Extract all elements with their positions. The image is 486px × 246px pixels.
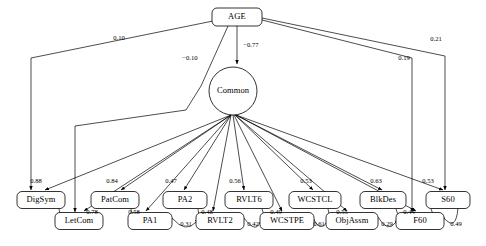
path-diagram-canvas: AGE Common DigSym LetCom PatCom PA1 (0, 0, 486, 246)
edge-age-digsym (31, 21, 213, 190)
edge-label-age-digsym: 0.10 (113, 34, 125, 41)
edge-label-common-pa1: 0.58 (128, 208, 140, 215)
edge-label-age-f60: 0.19 (398, 54, 410, 61)
node-patcom[interactable]: PatCom (91, 192, 139, 209)
node-letcom[interactable]: LetCom (55, 213, 103, 230)
edge-label-age-common: −0.77 (243, 41, 259, 48)
corr-label-pa1-rvlt2: 0.31 (180, 220, 192, 227)
edge-label-age-letcom: −0.10 (182, 54, 198, 61)
edge-label-common-wcstcl: 0.53 (300, 177, 312, 184)
node-objassm-label: ObjAssm (336, 215, 369, 225)
node-common[interactable]: Common (209, 67, 257, 115)
node-wcstcl-label: WCSTCL (297, 194, 332, 204)
node-pa1[interactable]: PA1 (128, 213, 172, 230)
edge-label-common-rvlt6: 0.56 (229, 177, 241, 184)
edge-label-common-rvlt2: 0.48 (201, 208, 213, 215)
node-pa2-label: PA2 (178, 194, 193, 204)
edge-age-letcom (75, 26, 228, 212)
node-rvlt2[interactable]: RVLT2 (196, 213, 244, 230)
corr-label-rvlt2-wcstpe: 0.42 (247, 220, 259, 227)
edge-label-common-wcstpe: 0.49 (270, 208, 282, 215)
node-s60[interactable]: S60 (426, 192, 470, 209)
edge-label-common-blkdes: 0.63 (370, 177, 382, 184)
node-rvlt6[interactable]: RVLT6 (225, 192, 273, 209)
node-pa1-label: PA1 (143, 215, 158, 225)
edge-age-s60 (262, 18, 445, 190)
node-wcstpe[interactable]: WCSTPE (260, 213, 314, 230)
edge-label-common-patcom: 0.84 (106, 177, 118, 184)
node-pa2[interactable]: PA2 (163, 192, 207, 209)
edge-label-common-digsym: 0.88 (30, 177, 42, 184)
node-rvlt6-label: RVLT6 (236, 194, 261, 204)
edge-label-common-pa2: 0.47 (165, 177, 177, 184)
corr-label-wcstpe-objassm: 0.61 (313, 220, 325, 227)
node-age[interactable]: AGE (212, 8, 262, 26)
node-digsym[interactable]: DigSym (17, 192, 65, 209)
node-objassm[interactable]: ObjAssm (326, 213, 378, 230)
edge-label-common-letcom: 0.78 (86, 208, 98, 215)
node-f60-label: F60 (413, 215, 427, 225)
node-common-label: Common (217, 85, 250, 95)
edge-age-f60 (262, 20, 412, 212)
corr-label-objassm-f60: 0.29 (381, 220, 393, 227)
edge-label-age-s60: 0.21 (430, 35, 442, 42)
edge-label-common-objassm: 0.55 (336, 208, 348, 215)
node-s60-label: S60 (441, 194, 455, 204)
sem-path-diagram: AGE Common DigSym LetCom PatCom PA1 (0, 0, 486, 246)
node-blkdes[interactable]: BlkDes (360, 192, 406, 209)
node-letcom-label: LetCom (65, 215, 94, 225)
edge-label-common-s60: 0.53 (422, 177, 434, 184)
node-patcom-label: PatCom (101, 194, 129, 204)
node-blkdes-label: BlkDes (370, 194, 396, 204)
node-digsym-label: DigSym (27, 194, 56, 204)
node-age-label: AGE (228, 11, 246, 21)
node-wcstpe-label: WCSTPE (270, 215, 304, 225)
edge-label-common-f60: 0.44 (403, 208, 415, 215)
node-rvlt2-label: RVLT2 (207, 215, 232, 225)
node-wcstcl[interactable]: WCSTCL (289, 192, 341, 209)
edge-label-group: 0.10 −0.77 −0.10 0.19 0.21 0.88 0.78 0.8… (30, 34, 442, 215)
node-f60[interactable]: F60 (396, 213, 444, 230)
corr-label-f60-s60: 0.49 (450, 220, 462, 227)
